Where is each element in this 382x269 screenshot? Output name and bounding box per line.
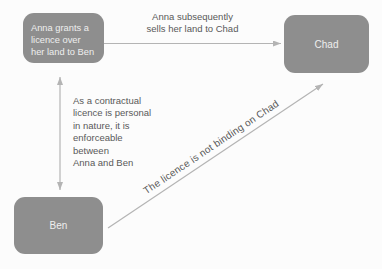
contractual-note-line: licence is personal <box>73 107 151 119</box>
anna-box-line: licence over <box>31 34 100 46</box>
contractual-note-line: enforceable <box>73 132 151 144</box>
sale-label-line: Anna subsequently <box>104 11 281 23</box>
contractual-note-line: between <box>73 145 151 157</box>
chad-box: Chad <box>284 15 369 73</box>
ben-box-label: Ben <box>50 220 68 231</box>
ben-box: Ben <box>14 197 103 254</box>
sale-label: Anna subsequently sells her land to Chad <box>104 11 281 35</box>
anna-box: Anna grants a licence over her land to B… <box>23 13 104 63</box>
contractual-note-line: As a contractual <box>73 95 151 107</box>
contractual-note-line: Anna and Ben <box>73 157 151 169</box>
chad-box-label: Chad <box>315 39 339 50</box>
sale-label-line: sells her land to Chad <box>104 23 281 35</box>
diagram-canvas: Anna grants a licence over her land to B… <box>0 0 382 269</box>
contractual-note: As a contractual licence is personal in … <box>73 95 151 169</box>
contractual-note-line: in nature, it is <box>73 120 151 132</box>
anna-box-line: Anna grants a <box>31 22 100 34</box>
anna-box-line: her land to Ben <box>31 46 100 58</box>
